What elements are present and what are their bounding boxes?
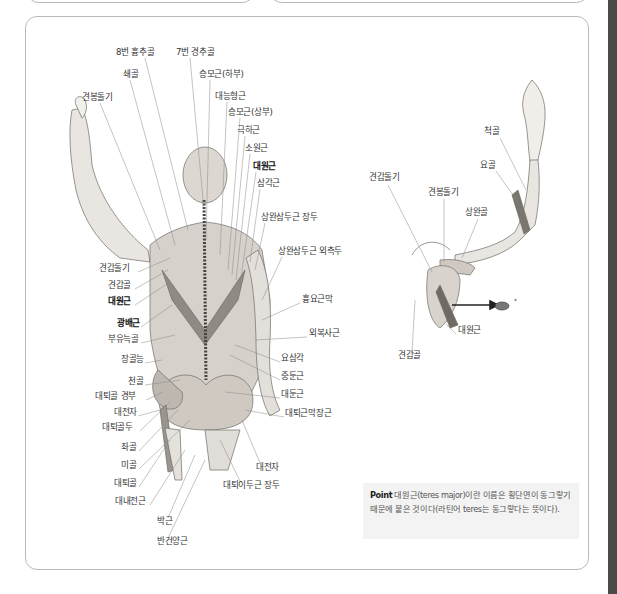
label-triceps-long-head: 상완삼두근 장두 <box>261 213 317 222</box>
label-lumbar-triangle: 요삼각 <box>281 354 304 363</box>
label-teres-major-arm: 대원근 <box>458 326 481 335</box>
label-iliac-crest: 장골능 <box>121 355 144 364</box>
label-adductor-magnus: 대내전근 <box>115 497 146 506</box>
label-ulna: 척골 <box>484 127 499 136</box>
label-sacrum: 천골 <box>128 377 143 386</box>
scrollbar[interactable] <box>608 0 617 594</box>
label-femoral-neck: 대퇴골 경부 <box>95 392 136 401</box>
label-teres-minor: 소원근 <box>245 144 268 153</box>
label-triceps-lateral-head: 상완삼두근 외측두 <box>278 247 342 256</box>
label-teres-major: 대원근 <box>253 162 276 171</box>
label-infraspinatus: 극하근 <box>237 126 260 135</box>
point-label: Point <box>370 490 392 500</box>
arm-figure-drawing <box>412 80 545 328</box>
label-floating-rib: 부유늑골 <box>108 335 139 344</box>
label-thoracolumbar-fascia: 흉요근막 <box>302 295 333 304</box>
label-gracilis: 박근 <box>157 517 172 526</box>
label-femur: 대퇴골 <box>114 479 137 488</box>
label-acromion-arm: 견봉돌기 <box>428 188 459 197</box>
label-cervical-7: 7번 경추골 <box>176 48 214 57</box>
label-tensor-fasciae-latae: 대퇴근막장근 <box>285 409 331 418</box>
label-ischium: 좌골 <box>121 443 136 452</box>
label-greater-trochanter-right: 대전자 <box>256 463 279 472</box>
cross-section-asterisk: * <box>514 297 517 304</box>
point-note-box: Point 대원근(teres major)이란 이름은 횡단면이 동그랗기 때… <box>363 483 579 539</box>
label-latissimus-dorsi: 광배근 <box>117 319 140 328</box>
label-gluteus-maximus: 대둔근 <box>281 390 304 399</box>
label-humerus: 상완골 <box>465 208 488 217</box>
label-scapula: 견갑골 <box>108 281 131 290</box>
teres-major-cross-section <box>495 302 509 310</box>
label-rhomboid-major: 대능형근 <box>215 92 246 101</box>
label-semitendinosus: 반건양근 <box>157 537 188 546</box>
label-gluteus-medius: 중둔근 <box>281 372 304 381</box>
label-biceps-femoris-long-head: 대퇴이두근 장두 <box>223 481 279 490</box>
label-trapezius-lower: 승모근(하부) <box>199 70 244 79</box>
label-greater-trochanter: 대전자 <box>114 408 137 417</box>
cross-section-arrow <box>452 301 498 309</box>
label-radius: 요골 <box>480 161 495 170</box>
label-scapular-spine: 견갑돌기 <box>99 264 130 273</box>
label-thoracic-8: 8번 흉추골 <box>116 48 154 57</box>
label-trapezius-upper: 승모근(상부) <box>228 108 273 117</box>
label-deltoid: 삼각근 <box>257 179 280 188</box>
label-acromion: 견봉돌기 <box>82 93 113 102</box>
label-clavicle: 쇄골 <box>123 70 138 79</box>
point-text: 대원근(teres major)이란 이름은 횡단면이 동그랗기 때문에 붙은 … <box>370 490 571 514</box>
label-femoral-head: 대퇴골두 <box>102 423 133 432</box>
label-coccyx: 미골 <box>121 461 136 470</box>
label-scapula-arm: 견갑골 <box>398 351 421 360</box>
label-teres-major-left: 대원근 <box>108 297 131 306</box>
label-external-oblique: 외복사근 <box>309 329 340 338</box>
label-scapular-spine-arm: 견갑돌기 <box>369 173 400 182</box>
